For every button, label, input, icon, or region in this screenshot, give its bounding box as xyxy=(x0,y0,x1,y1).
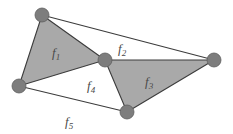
face-label-f5-subscript: 5 xyxy=(69,121,74,131)
face-label-f4: f4 xyxy=(87,78,96,95)
planar-graph-canvas: f1 f2 f3 f4 f5 xyxy=(0,0,233,134)
face-label-f1-subscript: 1 xyxy=(56,52,61,62)
right-vertex xyxy=(207,53,221,67)
top-left-vertex xyxy=(35,8,49,22)
face-label-f4-subscript: 4 xyxy=(91,85,96,95)
bottom-vertex xyxy=(120,105,134,119)
face-f3-shape xyxy=(105,60,214,112)
center-vertex xyxy=(98,53,112,67)
left-vertex xyxy=(12,79,26,93)
face-label-f2: f2 xyxy=(118,41,127,58)
face-label-f5: f5 xyxy=(65,114,74,131)
faces-layer xyxy=(19,15,214,112)
face-label-f2-subscript: 2 xyxy=(122,48,127,58)
planar-graph-figure: f1 f2 f3 f4 f5 xyxy=(0,0,233,134)
face-label-f3-subscript: 3 xyxy=(148,81,154,91)
edge-left-to-bottom xyxy=(19,86,127,112)
